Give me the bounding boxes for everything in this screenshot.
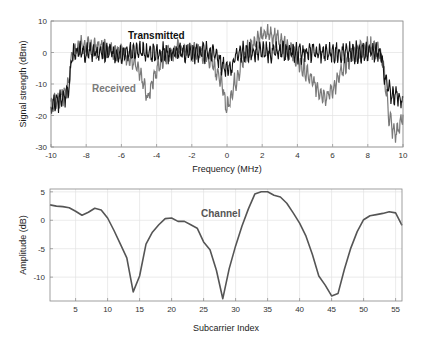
svg-text:6: 6 — [330, 151, 335, 160]
svg-text:5: 5 — [73, 305, 78, 314]
svg-text:10: 10 — [399, 151, 408, 160]
figure: -10-8-6-4-20246810100-10-20-30 Transmitt… — [0, 0, 425, 351]
svg-text:15: 15 — [135, 305, 144, 314]
svg-text:-4: -4 — [153, 151, 161, 160]
svg-text:50: 50 — [359, 305, 368, 314]
bottom-x-axis-label: Subcarrier Index — [193, 323, 260, 333]
svg-text:-10: -10 — [33, 273, 45, 282]
svg-text:0: 0 — [41, 216, 46, 225]
svg-text:0: 0 — [43, 49, 48, 58]
channel-label: Channel — [201, 208, 241, 219]
svg-text:55: 55 — [391, 305, 400, 314]
svg-text:25: 25 — [199, 305, 208, 314]
svg-text:40: 40 — [295, 305, 304, 314]
svg-text:0: 0 — [225, 151, 230, 160]
svg-text:5: 5 — [41, 188, 46, 197]
svg-text:-10: -10 — [35, 80, 47, 89]
svg-text:35: 35 — [263, 305, 272, 314]
svg-text:-6: -6 — [118, 151, 126, 160]
svg-text:10: 10 — [103, 305, 112, 314]
top-plot-spectrum: -10-8-6-4-20246810100-10-20-30 Transmitt… — [18, 17, 408, 174]
bottom-y-axis-label: Amplitude (dB) — [18, 215, 28, 275]
svg-text:-20: -20 — [35, 112, 47, 121]
svg-text:-8: -8 — [83, 151, 91, 160]
svg-text:-30: -30 — [35, 143, 47, 152]
svg-text:20: 20 — [167, 305, 176, 314]
svg-text:2: 2 — [260, 151, 265, 160]
bottom-plot-channel: 51015202530354045505550-5-10 Channel Sub… — [18, 188, 402, 333]
svg-text:45: 45 — [327, 305, 336, 314]
svg-text:8: 8 — [366, 151, 371, 160]
svg-text:-2: -2 — [188, 151, 196, 160]
svg-text:10: 10 — [38, 17, 47, 26]
svg-text:-10: -10 — [45, 151, 57, 160]
top-y-axis-label: Signal strength (dBm) — [18, 40, 28, 127]
received-label: Received — [92, 83, 136, 94]
svg-text:4: 4 — [295, 151, 300, 160]
svg-text:30: 30 — [231, 305, 240, 314]
top-x-axis-label: Frequency (MHz) — [192, 164, 262, 174]
transmitted-label: Transmitted — [128, 30, 185, 41]
svg-text:-5: -5 — [38, 245, 46, 254]
bottom-tick-labels: 51015202530354045505550-5-10 — [33, 188, 400, 314]
